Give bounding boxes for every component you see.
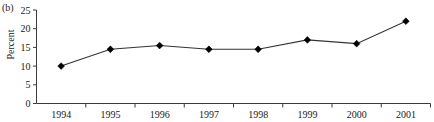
data-point-marker (402, 18, 409, 25)
data-point-marker (353, 40, 360, 47)
x-tick-label: 2000 (347, 109, 367, 120)
x-tick-label: 2001 (396, 109, 416, 120)
chart-figure: (b) Percent 0510152025 19941995199619971… (0, 0, 434, 122)
x-tick-label: 1999 (297, 109, 317, 120)
y-tick-label: 15 (21, 42, 31, 53)
x-axis-tick-marks (86, 104, 431, 108)
data-point-marker (304, 37, 311, 44)
y-axis-tick-labels: 0510152025 (21, 5, 31, 110)
series-markers-percent (58, 18, 410, 70)
data-point-marker (205, 46, 212, 53)
y-tick-label: 25 (21, 5, 31, 16)
y-tick-label: 0 (26, 98, 31, 109)
y-tick-label: 10 (21, 61, 31, 72)
data-point-marker (255, 46, 262, 53)
x-tick-label: 1997 (199, 109, 219, 120)
data-point-marker (107, 46, 114, 53)
x-tick-label: 1995 (100, 109, 120, 120)
data-point-marker (58, 63, 65, 70)
x-tick-label: 1994 (51, 109, 71, 120)
line-chart-plot: 0510152025 19941995199619971998199920002… (0, 0, 434, 122)
data-point-marker (156, 42, 163, 49)
y-axis-tick-marks (33, 10, 37, 104)
y-tick-label: 5 (26, 79, 31, 90)
x-tick-label: 1996 (150, 109, 170, 120)
y-tick-label: 20 (21, 23, 31, 34)
x-axis-tick-labels: 19941995199619971998199920002001 (51, 109, 416, 120)
x-tick-label: 1998 (248, 109, 268, 120)
